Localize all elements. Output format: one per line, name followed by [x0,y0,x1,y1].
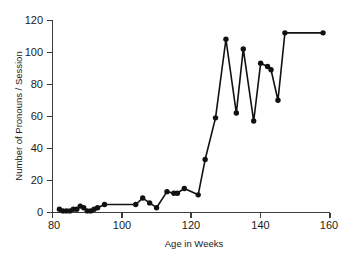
chart-figure: 0 20 40 60 80 100 120 80 100 120 140 160… [0,0,351,259]
data-point [147,200,152,205]
data-point [182,186,187,191]
data-point [195,192,200,197]
y-tick-label-0: 0 [37,206,43,218]
y-tick-label-60: 60 [31,110,43,122]
y-axis-title: Number of Pronouns / Session [13,51,24,180]
data-point [258,61,263,66]
line-chart-svg: 0 20 40 60 80 100 120 80 100 120 140 160… [0,0,351,259]
data-point [202,157,207,162]
data-point [275,98,280,103]
y-tick-label-120: 120 [25,14,43,26]
data-point [223,37,228,42]
data-point [320,30,325,35]
y-tick-label-40: 40 [31,142,43,154]
data-point [282,30,287,35]
data-point [241,46,246,51]
x-tick-label-80: 80 [48,219,60,231]
data-point [213,115,218,120]
data-point [164,189,169,194]
data-point [251,118,256,123]
data-point [95,205,100,210]
data-point [268,67,273,72]
data-point [102,202,107,207]
x-tick-label-120: 120 [182,219,200,231]
data-point [234,110,239,115]
data-point [154,205,159,210]
data-point [140,195,145,200]
y-tick-label-100: 100 [25,46,43,58]
y-tick-label-80: 80 [31,78,43,90]
data-point [133,202,138,207]
y-tick-label-20: 20 [31,174,43,186]
data-point [175,191,180,196]
x-tick-label-140: 140 [251,219,269,231]
x-tick-label-160: 160 [320,219,338,231]
x-tick-label-100: 100 [113,219,131,231]
x-axis-title: Age in Weeks [165,238,224,249]
